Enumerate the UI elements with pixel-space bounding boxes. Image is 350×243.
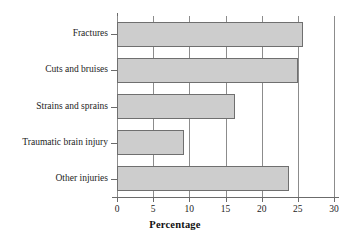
x-tick-label: 15 [211,203,241,215]
x-tick-label: 30 [319,203,349,215]
bar-1 [117,22,303,47]
category-label: Fractures [0,28,108,39]
x-tick-20 [262,197,263,202]
plot-area [117,16,334,197]
category-label: Cuts and bruises [0,64,108,75]
grid-line-30 [334,16,335,197]
bar-row [117,58,298,83]
x-tick-label: 20 [247,203,277,215]
x-tick-label: 5 [138,203,168,215]
bar-4 [117,130,184,155]
bar-3 [117,94,235,119]
x-tick-label: 0 [102,203,132,215]
x-axis-title: Percentage [0,219,350,230]
bar-row [117,166,289,191]
x-tick-0 [117,197,118,202]
x-tick-5 [153,197,154,202]
category-label: Traumatic brain injury [0,137,108,148]
bar-row [117,94,235,119]
bar-chart: FracturesCuts and bruisesStrains and spr… [0,0,350,243]
x-tick-25 [298,197,299,202]
category-tick-2 [111,70,117,71]
category-tick-5 [111,179,117,180]
bar-2 [117,58,298,83]
category-tick-4 [111,143,117,144]
category-tick-3 [111,107,117,108]
category-tick-1 [111,34,117,35]
category-label: Strains and sprains [0,101,108,112]
x-tick-label: 10 [174,203,204,215]
bar-row [117,22,303,47]
x-tick-label: 25 [283,203,313,215]
x-tick-15 [226,197,227,202]
bar-row [117,130,184,155]
x-tick-30 [334,197,335,202]
bar-5 [117,166,289,191]
category-label: Other injuries [0,173,108,184]
x-tick-10 [189,197,190,202]
